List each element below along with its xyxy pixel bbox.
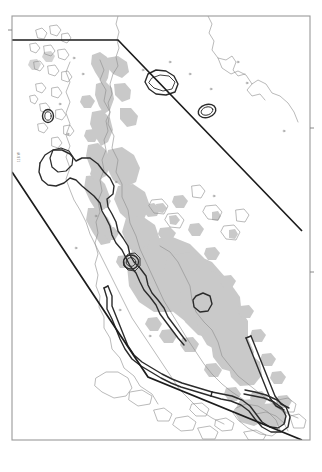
map-page: 118 W	[0, 0, 322, 472]
left-axis-label: 118 W	[17, 152, 21, 162]
map-canvas	[0, 0, 322, 472]
map-figure: 118 W	[0, 0, 322, 472]
